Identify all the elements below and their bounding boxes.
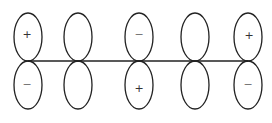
- top-lobe: [64, 13, 92, 61]
- phase-sign-bottom: −: [22, 78, 31, 91]
- bottom-lobe: [181, 61, 209, 109]
- phase-sign-bottom: −: [243, 78, 252, 91]
- bottom-lobe: [64, 61, 92, 109]
- top-lobe: [181, 13, 209, 61]
- phase-sign-top: +: [244, 29, 253, 42]
- phase-sign-top: +: [22, 28, 31, 41]
- orbital-diagram: + − − + + −: [0, 0, 272, 123]
- phase-sign-top: −: [134, 28, 143, 41]
- phase-sign-bottom: +: [134, 82, 143, 95]
